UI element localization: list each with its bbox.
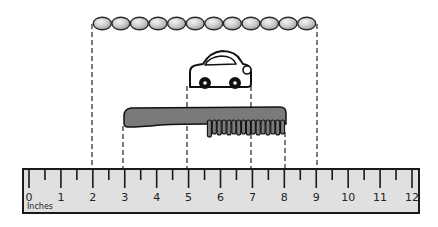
bead-necklace xyxy=(93,17,315,30)
comb-tooth xyxy=(251,120,255,134)
comb-teeth xyxy=(207,120,284,137)
car-headlight xyxy=(243,66,251,74)
bead xyxy=(223,17,241,30)
bead xyxy=(242,17,260,30)
ruler: 0123456789101112 Inches xyxy=(23,169,419,213)
comb-tooth xyxy=(217,120,221,135)
toy-car xyxy=(190,51,251,88)
comb-tooth xyxy=(227,120,231,135)
bead xyxy=(149,17,167,30)
ruler-label: 5 xyxy=(185,191,192,204)
bead xyxy=(112,17,130,30)
comb-tooth xyxy=(266,120,270,135)
car-wheel-front-hub xyxy=(233,81,237,85)
bead xyxy=(261,17,279,30)
ruler-label: 12 xyxy=(405,191,419,204)
ruler-label: 4 xyxy=(153,191,160,204)
bead xyxy=(298,17,316,30)
comb-tooth xyxy=(281,120,285,134)
comb-tooth xyxy=(237,120,241,135)
ruler-label: 9 xyxy=(313,191,320,204)
comb-tooth xyxy=(232,120,236,134)
bead xyxy=(186,17,204,30)
ruler-unit-label: Inches xyxy=(27,202,53,211)
ruler-label: 6 xyxy=(217,191,224,204)
ruler-label: 10 xyxy=(341,191,355,204)
ruler-label: 1 xyxy=(57,191,64,204)
bead xyxy=(130,17,148,30)
bead xyxy=(93,17,111,30)
comb-tooth xyxy=(242,120,246,134)
comb-tooth xyxy=(212,120,216,134)
comb-tooth xyxy=(256,120,260,135)
measurement-diagram: 0123456789101112 Inches xyxy=(0,0,438,227)
ruler-label: 3 xyxy=(121,191,128,204)
ruler-label: 8 xyxy=(281,191,288,204)
bead xyxy=(205,17,223,30)
comb-tooth xyxy=(276,120,280,135)
ruler-label: 2 xyxy=(89,191,96,204)
comb-tooth xyxy=(207,120,211,137)
bead xyxy=(168,17,186,30)
comb xyxy=(124,107,286,137)
bead xyxy=(279,17,297,30)
comb-tooth xyxy=(246,120,250,135)
comb-tooth xyxy=(222,120,226,134)
comb-tooth xyxy=(271,120,275,134)
guide-lines xyxy=(92,24,317,172)
comb-tooth xyxy=(261,120,265,134)
ruler-label: 11 xyxy=(373,191,387,204)
car-wheel-rear-hub xyxy=(203,81,207,85)
ruler-label: 7 xyxy=(249,191,256,204)
